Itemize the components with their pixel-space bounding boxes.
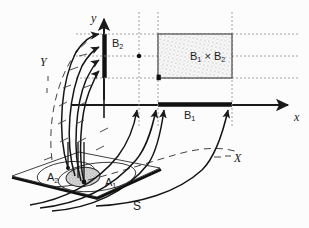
y-axis-label: y <box>91 12 96 24</box>
tick-7 <box>78 138 86 142</box>
set-b2-label: B2 <box>112 38 123 50</box>
tick-11 <box>96 146 104 150</box>
product-label-times: × <box>201 50 214 62</box>
set-a1-label: A1 <box>105 177 116 189</box>
tick-12 <box>100 128 108 132</box>
preimage-product-diagram: y x Y X S B2 B1 B1 × B2 A1 A2 <box>0 0 309 228</box>
set-b2-label-sub: 2 <box>119 42 123 51</box>
set-a2-label: A2 <box>47 172 58 184</box>
diagram-canvas <box>0 0 309 228</box>
tick-5 <box>70 67 78 70</box>
plane-label-S: S <box>133 200 141 212</box>
point-in-product-rect <box>157 75 161 81</box>
Y-leader-dashes <box>47 76 48 93</box>
x-axis-label: x <box>294 111 299 123</box>
X-leader-dashes <box>214 156 231 157</box>
point-on-y-guide <box>137 54 141 58</box>
space-label-X: X <box>234 152 241 164</box>
set-b1-label: B1 <box>184 110 195 122</box>
set-a2-label-sub: 2 <box>54 176 58 185</box>
tick-1 <box>60 138 68 142</box>
set-b1-label-sub: 1 <box>191 114 195 123</box>
product-label-sub2: 2 <box>221 55 225 64</box>
plane-point-a1 <box>82 180 87 185</box>
plane-point-a2 <box>66 166 70 170</box>
space-label-Y: Y <box>40 56 47 68</box>
product-set-label: B1 × B2 <box>190 51 225 63</box>
tick-13 <box>44 157 52 160</box>
set-a1-label-sub: 1 <box>112 181 116 190</box>
